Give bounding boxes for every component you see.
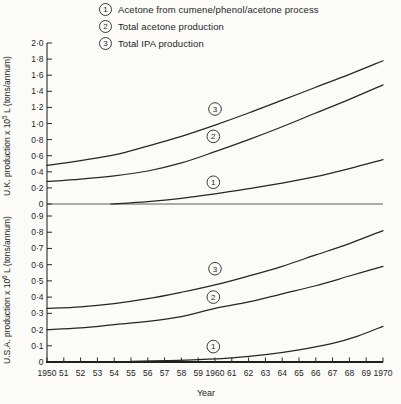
svg-text:0·6: 0·6 <box>31 151 44 161</box>
svg-text:69: 69 <box>361 368 371 378</box>
svg-text:66: 66 <box>311 368 321 378</box>
svg-text:1·4: 1·4 <box>31 86 44 96</box>
legend-marker-2: 2 <box>99 20 112 33</box>
svg-text:1·0: 1·0 <box>31 119 44 129</box>
svg-text:0·5: 0·5 <box>31 276 44 286</box>
svg-text:2: 2 <box>211 132 216 141</box>
uk-curve-label-1: 1 <box>207 176 220 189</box>
uk-y-axis-ticks: 2·01·81·61·41·21·00·80·60·40·20 <box>31 38 52 209</box>
usa-curve-label-1: 1 <box>207 340 220 353</box>
x-axis-title: Year <box>197 388 215 398</box>
svg-text:1·2: 1·2 <box>31 102 44 112</box>
usa-curve-label-2: 2 <box>207 291 220 304</box>
svg-text:67: 67 <box>328 368 338 378</box>
svg-text:0·1: 0·1 <box>31 341 44 351</box>
svg-text:1: 1 <box>211 342 216 351</box>
usa-y-axis-ticks: 0·90·80·70·60·50·40·30·20·10 <box>31 211 52 367</box>
chart-legend: 1 Acetone from cumene/phenol/acetone pro… <box>99 3 319 50</box>
svg-text:0·4: 0·4 <box>31 292 44 302</box>
svg-text:3: 3 <box>213 265 218 274</box>
svg-text:0·8: 0·8 <box>31 227 44 237</box>
svg-text:1·6: 1·6 <box>31 70 44 80</box>
legend-label-3: Total IPA production <box>118 38 204 49</box>
svg-text:1970: 1970 <box>374 368 393 378</box>
x-axis-ticks: 1950515253545556575859196061626364656667… <box>38 358 393 379</box>
svg-text:0·6: 0·6 <box>31 260 44 270</box>
svg-text:2: 2 <box>211 293 216 302</box>
legend-marker-1: 1 <box>99 3 112 16</box>
legend-marker-3: 3 <box>99 37 112 50</box>
svg-text:63: 63 <box>261 368 271 378</box>
svg-text:3: 3 <box>213 105 218 114</box>
svg-text:51: 51 <box>59 368 69 378</box>
svg-text:58: 58 <box>177 368 187 378</box>
svg-text:0·9: 0·9 <box>31 211 44 221</box>
svg-text:52: 52 <box>76 368 86 378</box>
svg-text:65: 65 <box>294 368 304 378</box>
svg-text:0·4: 0·4 <box>31 167 44 177</box>
usa-curve-label-3: 3 <box>209 262 222 275</box>
svg-text:2·0: 2·0 <box>31 38 44 48</box>
svg-text:61: 61 <box>227 368 237 378</box>
usa-curve-1 <box>131 326 383 361</box>
uk-curve-label-3: 3 <box>209 103 222 116</box>
chart-canvas: 1950515253545556575859196061626364656667… <box>0 0 401 404</box>
uk-curve-1 <box>111 160 383 204</box>
svg-text:56: 56 <box>143 368 153 378</box>
svg-text:1960: 1960 <box>206 368 225 378</box>
svg-text:0·2: 0·2 <box>31 183 44 193</box>
svg-text:0: 0 <box>39 199 44 209</box>
legend-label-1: Acetone from cumene/phenol/acetone proce… <box>118 4 319 15</box>
svg-text:57: 57 <box>160 368 170 378</box>
legend-item-2: 2 Total acetone production <box>99 20 319 33</box>
svg-text:1·8: 1·8 <box>31 54 44 64</box>
svg-text:1950: 1950 <box>38 368 57 378</box>
uk-curve-label-2: 2 <box>207 130 220 143</box>
svg-text:54: 54 <box>109 368 119 378</box>
svg-text:53: 53 <box>93 368 103 378</box>
svg-text:62: 62 <box>244 368 254 378</box>
panel-uk: 2·01·81·61·41·21·00·80·60·40·20U.K. prod… <box>1 38 383 209</box>
svg-text:0·8: 0·8 <box>31 135 44 145</box>
uk-y-axis-title: U.K. production x 105 L (tons/annum) <box>1 56 12 196</box>
svg-text:64: 64 <box>277 368 287 378</box>
svg-text:55: 55 <box>126 368 136 378</box>
svg-text:59: 59 <box>193 368 203 378</box>
svg-text:0: 0 <box>39 357 44 367</box>
svg-text:0·3: 0·3 <box>31 308 44 318</box>
legend-item-1: 1 Acetone from cumene/phenol/acetone pro… <box>99 3 319 16</box>
panel-usa: 0·90·80·70·60·50·40·30·20·10U.S.A. produ… <box>1 211 383 367</box>
legend-label-2: Total acetone production <box>118 21 224 32</box>
svg-text:68: 68 <box>345 368 355 378</box>
svg-text:1: 1 <box>211 178 216 187</box>
svg-text:0·7: 0·7 <box>31 243 44 253</box>
usa-y-axis-title: U.S.A. production x 106 L (tons/annum) <box>1 216 12 364</box>
legend-item-3: 3 Total IPA production <box>99 37 319 50</box>
svg-text:0·2: 0·2 <box>31 325 44 335</box>
figure-acetone-production: 1 Acetone from cumene/phenol/acetone pro… <box>0 0 401 404</box>
